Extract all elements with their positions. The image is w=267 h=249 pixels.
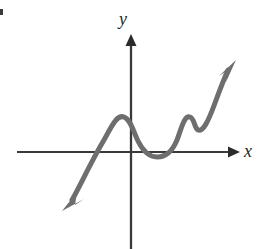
y-axis-label: y — [119, 10, 127, 28]
function-curve — [62, 60, 236, 211]
scan-artifact-mark — [0, 9, 3, 15]
graph-figure: y x — [0, 0, 267, 249]
coordinate-plane-svg — [0, 0, 267, 249]
x-axis — [17, 147, 240, 158]
y-axis-arrowhead-icon — [126, 34, 137, 46]
y-axis — [126, 34, 137, 249]
x-axis-arrowhead-icon — [228, 147, 240, 158]
curve-path — [72, 70, 228, 200]
x-axis-label: x — [244, 142, 252, 160]
